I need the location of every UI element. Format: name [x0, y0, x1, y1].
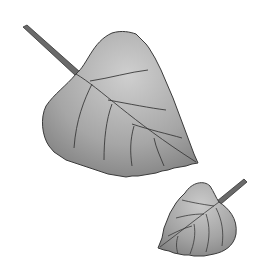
large-leaf-blade — [42, 31, 198, 177]
leaves-illustration — [0, 0, 267, 278]
small-leaf-blade — [158, 183, 236, 256]
large-leaf-stem — [23, 25, 80, 76]
small-leaf-stem — [217, 179, 247, 204]
large-leaf — [23, 25, 198, 177]
small-leaf — [158, 179, 247, 256]
leaves-svg — [0, 0, 267, 278]
